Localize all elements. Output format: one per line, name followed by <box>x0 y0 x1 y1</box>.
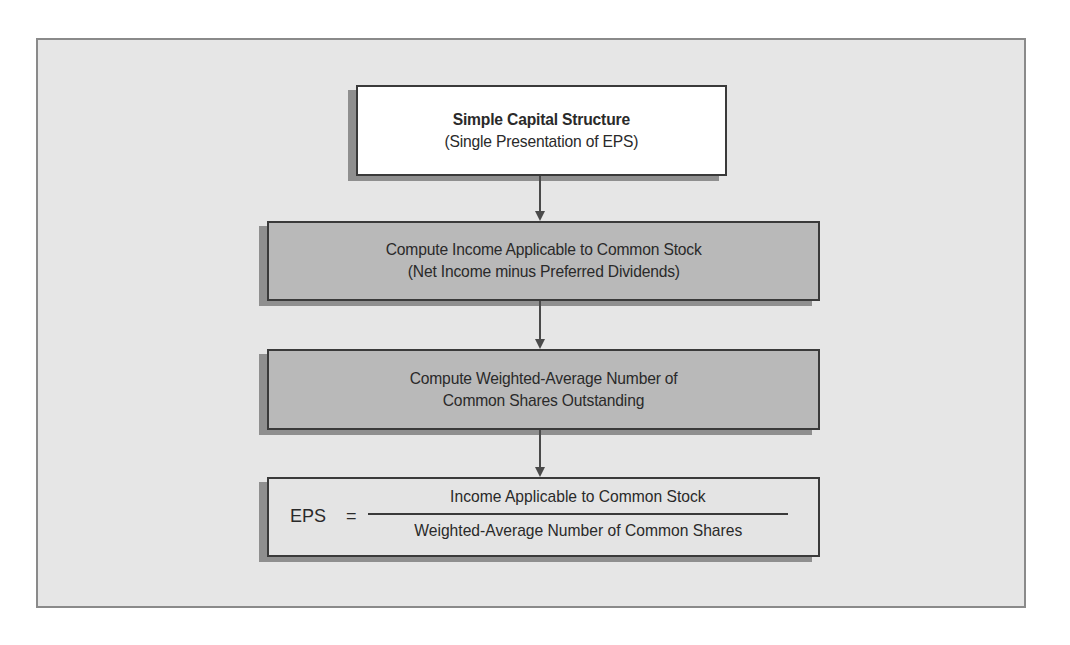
arrowhead-icon <box>535 339 545 349</box>
node-compute-income: Compute Income Applicable to Common Stoc… <box>267 221 820 301</box>
fraction-bar <box>368 513 788 515</box>
node-subtitle: (Single Presentation of EPS) <box>445 131 639 153</box>
node-line-2: (Net Income minus Preferred Dividends) <box>407 261 679 283</box>
node-line-1: Compute Weighted-Average Number of <box>410 368 678 390</box>
node-eps-formula: EPS = Income Applicable to Common Stock … <box>267 477 820 557</box>
node-title: Simple Capital Structure <box>453 109 630 131</box>
arrow-connector <box>539 176 541 212</box>
arrow-connector <box>539 430 541 468</box>
node-line-1: Compute Income Applicable to Common Stoc… <box>386 239 702 261</box>
fraction: Income Applicable to Common Stock Weight… <box>368 485 788 543</box>
equals-sign: = <box>346 505 357 527</box>
node-line-2: Common Shares Outstanding <box>443 390 644 412</box>
formula-lhs: EPS <box>290 505 326 527</box>
arrowhead-icon <box>535 211 545 221</box>
node-compute-weighted-average: Compute Weighted-Average Number of Commo… <box>267 349 820 430</box>
node-simple-capital-structure: Simple Capital Structure (Single Present… <box>356 85 727 176</box>
eps-formula: EPS = Income Applicable to Common Stock … <box>269 479 818 555</box>
fraction-numerator: Income Applicable to Common Stock <box>450 485 706 509</box>
arrow-connector <box>539 301 541 340</box>
fraction-denominator: Weighted-Average Number of Common Shares <box>414 519 742 543</box>
arrowhead-icon <box>535 467 545 477</box>
